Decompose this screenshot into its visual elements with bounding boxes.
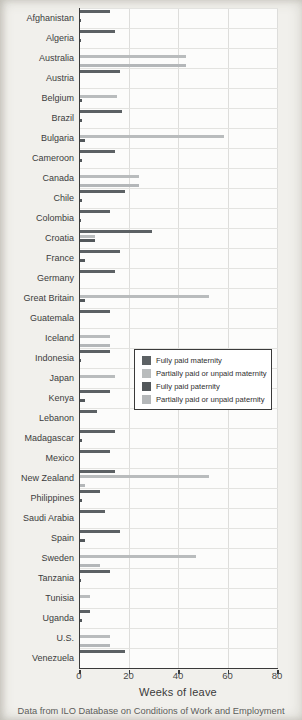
country-label: Indonesia bbox=[0, 348, 74, 368]
bar-p_full bbox=[80, 199, 82, 202]
horizontal-gridline bbox=[80, 48, 278, 49]
legend-item: Fully paid paternity bbox=[142, 382, 265, 391]
bar-m_full bbox=[80, 210, 110, 213]
bar-p_full bbox=[80, 619, 82, 622]
bar-p_full bbox=[80, 499, 82, 502]
plot-area bbox=[79, 8, 278, 669]
country-label: Great Britain bbox=[0, 288, 74, 308]
bar-p_full bbox=[80, 119, 82, 122]
bar-m_full bbox=[80, 470, 115, 473]
bar-m_full bbox=[80, 310, 110, 313]
horizontal-gridline bbox=[80, 228, 278, 229]
horizontal-gridline bbox=[80, 28, 278, 29]
bar-p_full bbox=[80, 579, 81, 582]
legend-swatch-m_partial bbox=[142, 369, 151, 378]
horizontal-gridline bbox=[80, 108, 278, 109]
country-label: Germany bbox=[0, 268, 74, 288]
vertical-gridline bbox=[129, 8, 130, 668]
source-caption: Data from ILO Database on Conditions of … bbox=[0, 706, 302, 716]
bar-p_full bbox=[80, 159, 82, 162]
horizontal-gridline bbox=[80, 608, 278, 609]
country-label: Uganda bbox=[0, 608, 74, 628]
country-label: Philippines bbox=[0, 488, 74, 508]
country-label: Colombia bbox=[0, 208, 74, 228]
horizontal-gridline bbox=[80, 88, 278, 89]
bar-m_full bbox=[80, 30, 115, 33]
bar-p_full bbox=[80, 239, 95, 242]
bar-p_partial bbox=[80, 344, 110, 347]
country-label: Chile bbox=[0, 188, 74, 208]
country-label: Iceland bbox=[0, 328, 74, 348]
horizontal-gridline bbox=[80, 8, 278, 9]
country-label: Guatemala bbox=[0, 308, 74, 328]
bar-m_full bbox=[80, 270, 115, 273]
horizontal-gridline bbox=[80, 248, 278, 249]
bar-m_partial bbox=[80, 555, 196, 558]
bar-m_full bbox=[80, 430, 115, 433]
horizontal-gridline bbox=[80, 588, 278, 589]
x-axis-tick-label: 40 bbox=[163, 670, 193, 681]
vertical-gridline bbox=[178, 8, 179, 668]
country-label: Saudi Arabia bbox=[0, 508, 74, 528]
bar-m_full bbox=[80, 410, 97, 413]
bar-m_full bbox=[80, 450, 110, 453]
horizontal-gridline bbox=[80, 148, 278, 149]
legend-swatch-p_partial bbox=[142, 395, 151, 404]
bar-m_full bbox=[80, 490, 100, 493]
country-label: Japan bbox=[0, 368, 74, 388]
legend-label: Partially paid or unpaid maternity bbox=[156, 369, 267, 378]
x-axis-tick-label: 0 bbox=[64, 670, 94, 681]
legend-item: Partially paid or unpaid maternity bbox=[142, 369, 265, 378]
vertical-gridline bbox=[277, 8, 278, 668]
country-label: Croatia bbox=[0, 228, 74, 248]
bar-m_full bbox=[80, 150, 115, 153]
country-label: Kenya bbox=[0, 388, 74, 408]
bar-m_full bbox=[80, 70, 120, 73]
bar-p_partial bbox=[80, 64, 186, 67]
country-label: France bbox=[0, 248, 74, 268]
country-label: New Zealand bbox=[0, 468, 74, 488]
bar-m_full bbox=[80, 650, 125, 653]
country-label: Venezuela bbox=[0, 648, 74, 668]
bar-m_partial bbox=[80, 475, 209, 478]
vertical-gridline bbox=[228, 8, 229, 668]
bar-m_partial bbox=[80, 335, 110, 338]
legend-label: Fully paid paternity bbox=[156, 382, 220, 391]
bar-m_full bbox=[80, 250, 120, 253]
country-label: U.S. bbox=[0, 628, 74, 648]
country-label: Mexico bbox=[0, 448, 74, 468]
horizontal-gridline bbox=[80, 268, 278, 269]
bar-m_partial bbox=[80, 595, 90, 598]
bar-m_full bbox=[80, 10, 110, 13]
horizontal-gridline bbox=[80, 628, 278, 629]
country-label: Bulgaria bbox=[0, 128, 74, 148]
bar-p_full bbox=[80, 39, 81, 42]
horizontal-gridline bbox=[80, 288, 278, 289]
country-label: Spain bbox=[0, 528, 74, 548]
bar-m_full bbox=[80, 230, 152, 233]
bar-m_partial bbox=[80, 55, 186, 58]
x-axis-tick-label: 80 bbox=[262, 670, 292, 681]
bar-p_full bbox=[80, 399, 85, 402]
bar-p_full bbox=[80, 219, 81, 222]
horizontal-gridline bbox=[80, 448, 278, 449]
bar-p_full bbox=[80, 139, 85, 142]
horizontal-gridline bbox=[80, 128, 278, 129]
horizontal-gridline bbox=[80, 568, 278, 569]
bar-p_full bbox=[80, 99, 82, 102]
horizontal-gridline bbox=[80, 68, 278, 69]
bar-m_full bbox=[80, 350, 110, 353]
country-label: Belgium bbox=[0, 88, 74, 108]
country-label: Tunisia bbox=[0, 588, 74, 608]
legend-item: Partially paid or unpaid paternity bbox=[142, 395, 265, 404]
horizontal-gridline bbox=[80, 188, 278, 189]
x-axis-tick-label: 60 bbox=[213, 670, 243, 681]
bar-m_partial bbox=[80, 135, 224, 138]
horizontal-gridline bbox=[80, 208, 278, 209]
legend-label: Fully paid maternity bbox=[156, 356, 222, 365]
x-axis-tick-label: 20 bbox=[114, 670, 144, 681]
horizontal-gridline bbox=[80, 428, 278, 429]
legend-item: Fully paid maternity bbox=[142, 356, 265, 365]
country-label: Cameroon bbox=[0, 148, 74, 168]
bar-p_partial bbox=[80, 644, 110, 647]
